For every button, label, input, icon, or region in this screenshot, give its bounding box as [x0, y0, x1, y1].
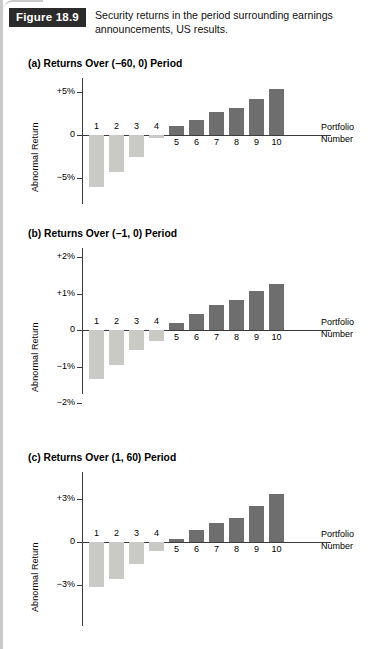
y-axis-tick-label: +5%	[34, 86, 75, 96]
panel-b-plot: Abnormal Return+2%+1%0−1%−2%12345678910P…	[3, 242, 383, 402]
y-axis-tick-label: +3%	[34, 493, 75, 503]
x-axis-label-line2: Number	[321, 541, 354, 553]
panel-b-title: (b) Returns Over (−1, 0) Period	[28, 228, 177, 239]
y-axis-tick	[77, 92, 82, 93]
y-axis-tick-label: −1%	[34, 361, 75, 371]
bar	[149, 135, 164, 138]
y-axis-tick	[77, 499, 82, 500]
bar-category-label: 10	[265, 137, 288, 147]
y-axis-tick	[77, 294, 82, 295]
bar	[169, 539, 184, 542]
bar	[109, 135, 124, 172]
bar	[269, 284, 284, 330]
bar	[169, 323, 184, 330]
bar	[229, 108, 244, 135]
figure-number-tag: Figure 18.9	[9, 8, 86, 27]
bar	[89, 542, 104, 587]
x-axis-label-line1: Portfolio	[321, 122, 354, 134]
figure-content: Figure 18.9 Security returns in the peri…	[3, 0, 383, 649]
figure-caption: Security returns in the period surroundi…	[95, 8, 363, 36]
y-axis-tick	[77, 330, 82, 331]
bar	[149, 542, 164, 551]
y-axis-tick-label: 0	[34, 324, 75, 334]
y-axis-tick-label: −3%	[34, 579, 75, 589]
bar	[89, 135, 104, 187]
bar	[189, 530, 204, 542]
bar	[209, 523, 224, 542]
bar	[269, 494, 284, 542]
figure-header: Figure 18.9 Security returns in the peri…	[9, 8, 377, 36]
bar-category-label: 10	[265, 332, 288, 342]
y-axis-tick	[77, 367, 82, 368]
bar	[189, 314, 204, 330]
x-axis-label-line1: Portfolio	[321, 317, 354, 329]
bar	[209, 305, 224, 330]
x-axis-label: PortfolioNumber	[321, 317, 354, 340]
x-axis-label-line2: Number	[321, 134, 354, 146]
bar-category-label: 4	[145, 528, 168, 538]
bar	[249, 99, 264, 135]
y-axis-tick-label: +1%	[34, 288, 75, 298]
y-axis-spine	[82, 472, 83, 626]
y-axis-tick	[77, 403, 82, 404]
y-axis-tick-label: −2%	[34, 397, 75, 407]
panel-c-plot: Abnormal Return+3%0−3%12345678910Portfol…	[3, 466, 383, 636]
y-axis-label: Abnormal Return	[30, 542, 40, 612]
panel-c-title: (c) Returns Over (1, 60) Period	[28, 452, 176, 463]
bar	[129, 330, 144, 350]
y-axis-tick-label: −5%	[34, 172, 75, 182]
panel-a-plot: Abnormal Return+5%0−5%12345678910Portfol…	[3, 72, 383, 212]
y-axis-tick	[77, 135, 82, 136]
y-axis-spine	[82, 248, 83, 394]
y-axis-spine	[82, 78, 83, 204]
bar	[189, 120, 204, 135]
y-axis-tick-label: +2%	[34, 251, 75, 261]
panel-a-title: (a) Returns Over (−60, 0) Period	[28, 58, 182, 69]
x-axis-label: PortfolioNumber	[321, 529, 354, 552]
bar	[249, 291, 264, 330]
x-axis-label: PortfolioNumber	[321, 122, 354, 145]
bar	[209, 112, 224, 135]
bar	[149, 330, 164, 341]
bar	[109, 330, 124, 365]
bar	[129, 135, 144, 157]
bar-category-label: 4	[145, 316, 168, 326]
x-axis-label-line2: Number	[321, 329, 354, 341]
bar	[109, 542, 124, 579]
bar-category-label: 4	[145, 121, 168, 131]
y-axis-tick	[77, 585, 82, 586]
bar	[89, 330, 104, 379]
bar	[269, 89, 284, 135]
bar	[129, 542, 144, 564]
bar	[229, 300, 244, 330]
y-axis-tick	[77, 178, 82, 179]
bar	[229, 518, 244, 542]
bar-category-label: 10	[265, 544, 288, 554]
x-axis-label-line1: Portfolio	[321, 529, 354, 541]
y-axis-tick	[77, 542, 82, 543]
bar	[169, 126, 184, 135]
bar	[249, 506, 264, 542]
y-axis-tick	[77, 257, 82, 258]
y-axis-tick-label: 0	[34, 129, 75, 139]
y-axis-tick-label: 0	[34, 536, 75, 546]
